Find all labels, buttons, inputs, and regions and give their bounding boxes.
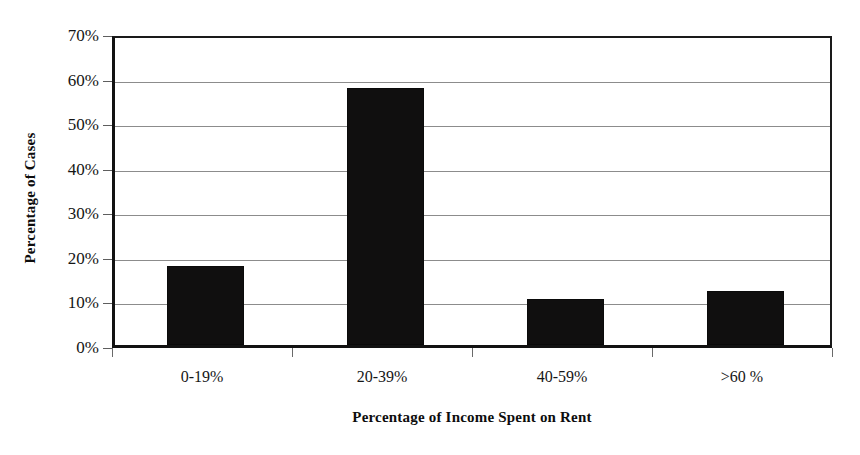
y-axis-tick-mark — [103, 36, 112, 37]
gridline — [115, 215, 830, 216]
x-axis-tick-mark — [472, 348, 473, 357]
y-axis-tick-label: 70% — [68, 27, 99, 44]
bar — [707, 291, 784, 345]
y-axis-tick-mark — [103, 170, 112, 171]
y-axis-tick-mark — [103, 259, 112, 260]
y-axis-tick-mark — [103, 81, 112, 82]
x-axis-title: Percentage of Income Spent on Rent — [112, 409, 832, 426]
gridline — [115, 260, 830, 261]
x-axis-tick-label: 20-39% — [292, 367, 472, 387]
y-axis-tick-mark — [103, 348, 112, 349]
gridline — [115, 171, 830, 172]
bar — [527, 299, 604, 345]
x-axis-tick-mark — [652, 348, 653, 357]
y-axis-tick-label: 60% — [68, 72, 99, 89]
y-axis-title: Percentage of Cases — [22, 68, 39, 328]
y-axis-tick-label: 30% — [68, 205, 99, 222]
y-axis-tick-label: 40% — [68, 161, 99, 178]
y-axis-tick-mark — [103, 303, 112, 304]
x-axis-tick-mark — [292, 348, 293, 357]
x-axis-tick-label: 0-19% — [112, 367, 292, 387]
x-axis-tick-label: >60 % — [652, 367, 832, 387]
bar — [167, 266, 244, 345]
y-axis-tick-label: 50% — [68, 116, 99, 133]
bar — [347, 88, 424, 345]
y-axis-tick-mark — [103, 214, 112, 215]
x-axis-tick-mark — [832, 348, 833, 357]
plot-area — [112, 36, 832, 348]
gridline — [115, 82, 830, 83]
gridline — [115, 126, 830, 127]
bar-chart: Percentage of Cases 0%10%20%30%40%50%60%… — [0, 0, 860, 455]
x-axis-tick-label: 40-59% — [472, 367, 652, 387]
x-axis-tick-mark — [112, 348, 113, 357]
y-axis-tick-label: 0% — [76, 339, 99, 356]
y-axis-tick-mark — [103, 125, 112, 126]
y-axis-tick-label: 10% — [68, 294, 99, 311]
y-axis-tick-label: 20% — [68, 250, 99, 267]
